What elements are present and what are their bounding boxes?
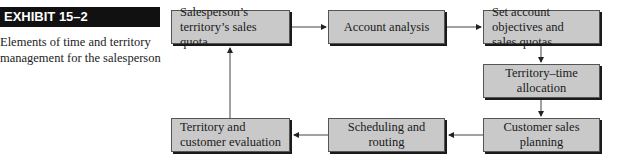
node-customer-sales-planning: Customer sales planning <box>483 118 600 152</box>
node-label: Set account objectives and sales quotas <box>492 5 591 50</box>
node-set-objectives: Set account objectives and sales quotas <box>483 10 600 44</box>
node-territory-customer-evaluation: Territory and customer evaluation <box>171 118 290 152</box>
node-label: Customer sales planning <box>492 120 591 150</box>
node-label: Account analysis <box>344 20 430 35</box>
node-label: Scheduling and routing <box>337 120 436 150</box>
node-account-analysis: Account analysis <box>328 10 445 44</box>
node-scheduling-routing: Scheduling and routing <box>328 118 445 152</box>
node-salesperson-quota: Salesperson’s territory’s sales quota <box>171 10 290 44</box>
node-label: Territory–time allocation <box>492 66 591 96</box>
node-territory-time-allocation: Territory–time allocation <box>483 64 600 98</box>
node-label: Territory and customer evaluation <box>180 120 281 150</box>
node-label: Salesperson’s territory’s sales quota <box>180 5 281 50</box>
